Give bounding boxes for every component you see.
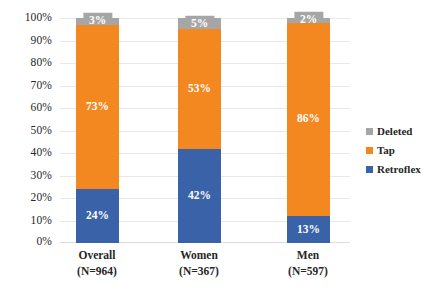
bar-label-retroflex-overall: 24%	[86, 210, 109, 222]
y-tick-0: 0%	[0, 236, 52, 248]
y-tick-30: 30%	[0, 170, 52, 182]
bar-segment-tap-men[interactable]: 86%	[287, 23, 330, 217]
bar-label-retroflex-women: 42%	[188, 190, 211, 202]
category-label-men: Men (N=597)	[253, 248, 363, 279]
y-tick-90: 90%	[0, 35, 52, 47]
y-tick-70: 70%	[0, 80, 52, 92]
legend: Deleted Tap Retroflex	[366, 122, 437, 179]
category-n-women: (N=367)	[144, 264, 254, 280]
category-n-overall: (N=964)	[42, 264, 152, 280]
y-tick-80: 80%	[0, 57, 52, 69]
bar-segment-retroflex-women[interactable]: 42%	[178, 149, 221, 244]
legend-item-retroflex[interactable]: Retroflex	[366, 160, 437, 179]
category-label-women: Women (N=367)	[144, 248, 254, 279]
legend-item-deleted[interactable]: Deleted	[366, 122, 437, 141]
category-label-overall: Overall (N=964)	[42, 248, 152, 279]
bar-label-tap-men: 86%	[297, 114, 320, 126]
bar-segment-tap-overall[interactable]: 73%	[76, 25, 119, 189]
legend-swatch-retroflex-icon	[366, 166, 373, 173]
y-axis: 100% 90% 80% 70% 60% 50% 40% 30% 20% 10%…	[0, 18, 52, 243]
bar-group-women[interactable]: 5% 53% 42%	[178, 18, 221, 243]
bar-segment-deleted-women[interactable]: 5%	[178, 18, 221, 29]
y-tick-40: 40%	[0, 147, 52, 159]
bar-label-retroflex-men: 13%	[297, 224, 320, 236]
legend-swatch-deleted-icon	[366, 128, 373, 135]
bar-segment-tap-women[interactable]: 53%	[178, 29, 221, 148]
stacked-bar-chart: 3% 73% 24% 5% 53% 42% 2%	[0, 0, 437, 290]
legend-label-deleted: Deleted	[377, 126, 412, 137]
category-name-overall: Overall	[78, 249, 115, 261]
category-name-women: Women	[180, 249, 218, 261]
y-tick-100: 100%	[0, 12, 52, 24]
y-tick-20: 20%	[0, 192, 52, 204]
bar-group-overall[interactable]: 3% 73% 24%	[76, 18, 119, 243]
legend-label-retroflex: Retroflex	[377, 164, 421, 175]
legend-label-tap: Tap	[377, 145, 395, 156]
y-tick-60: 60%	[0, 102, 52, 114]
bar-label-tap-overall: 73%	[86, 101, 109, 113]
y-tick-50: 50%	[0, 125, 52, 137]
legend-swatch-tap-icon	[366, 147, 373, 154]
bar-segment-retroflex-overall[interactable]: 24%	[76, 189, 119, 243]
plot-area: 3% 73% 24% 5% 53% 42% 2%	[60, 18, 350, 243]
category-n-men: (N=597)	[253, 264, 363, 280]
y-tick-10: 10%	[0, 215, 52, 227]
category-name-men: Men	[297, 249, 319, 261]
legend-item-tap[interactable]: Tap	[366, 141, 437, 160]
bar-group-men[interactable]: 2% 86% 13%	[287, 18, 330, 243]
bar-segment-retroflex-men[interactable]: 13%	[287, 216, 330, 243]
bar-label-tap-women: 53%	[188, 83, 211, 95]
bar-segment-deleted-overall[interactable]: 3%	[76, 18, 119, 25]
